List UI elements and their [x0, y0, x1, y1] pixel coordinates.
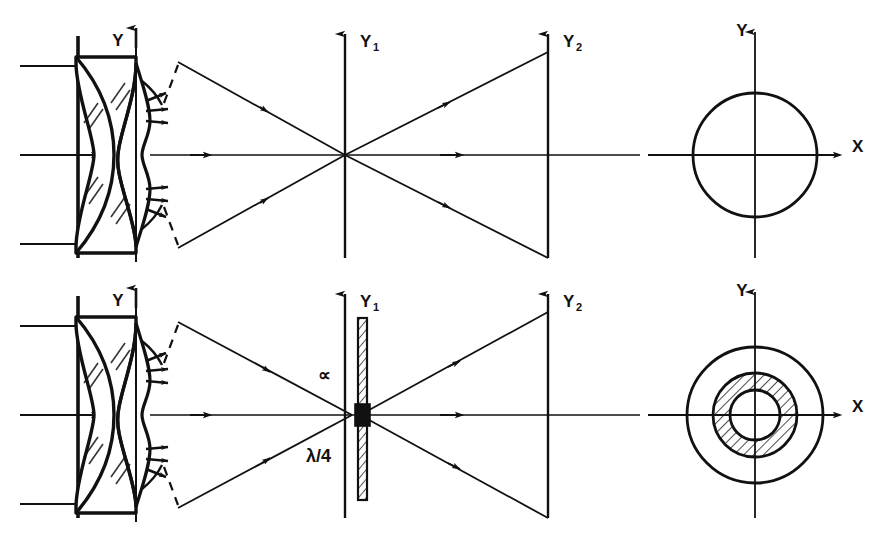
- lens-axis-label-bottom: Y: [112, 288, 136, 310]
- focal-plane-label-sub-bottom: 1: [373, 301, 379, 313]
- image-plane-axis-top: Y 2: [548, 32, 582, 258]
- pupil-bottom: Y X: [648, 281, 864, 518]
- pupil-y-label-top: Y: [736, 21, 748, 40]
- pupil-y-label-bottom: Y: [736, 281, 748, 300]
- top-row-panel: Y Y 1 Y 2: [20, 21, 864, 262]
- focal-plane-label-sub-top: 1: [373, 41, 379, 53]
- diagram-canvas: Y Y 1 Y 2: [0, 0, 881, 534]
- pupil-x-label-bottom: X: [852, 397, 864, 416]
- optical-diagram-figure: Y Y 1 Y 2: [0, 0, 881, 534]
- phase-retardation-label: λ/4: [306, 446, 331, 466]
- lens-axis-label-text-top: Y: [112, 31, 124, 50]
- image-plane-label-top: Y: [563, 32, 575, 51]
- focal-plane-label-bottom: Y: [360, 292, 372, 311]
- image-plane-axis-bottom: Y 2: [548, 292, 582, 518]
- lens-axis-label-top: Y: [112, 28, 136, 50]
- phase-plate: [355, 318, 370, 500]
- lens-axis-label-text-bottom: Y: [112, 291, 124, 310]
- focal-plane-axis-top: Y 1: [345, 32, 379, 258]
- image-plane-label-sub-bottom: 2: [576, 301, 582, 313]
- image-plane-label-bottom: Y: [563, 292, 575, 311]
- bottom-row-panel: Y Y 1 ∝ λ/4: [20, 281, 864, 522]
- pupil-top: Y X: [648, 21, 864, 258]
- phase-alpha-label: ∝: [318, 365, 331, 385]
- image-plane-label-sub-top: 2: [576, 41, 582, 53]
- pupil-x-label-top: X: [852, 137, 864, 156]
- phase-plate-center-block: [355, 404, 370, 426]
- focal-plane-label-top: Y: [360, 32, 372, 51]
